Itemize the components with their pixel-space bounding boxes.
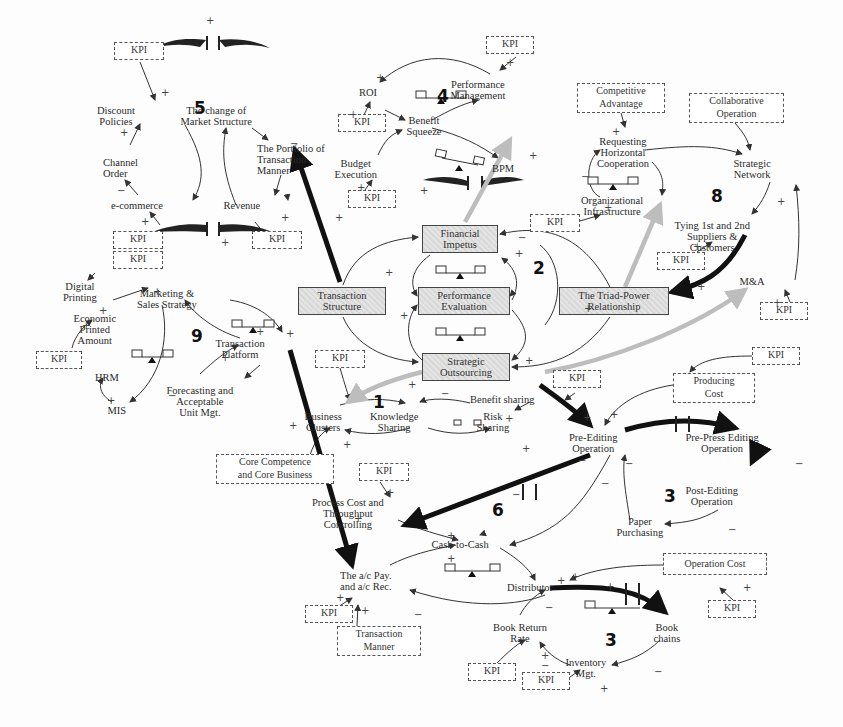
positive-polarity-sign: + — [82, 320, 90, 331]
positive-polarity-sign: + — [357, 182, 365, 193]
positive-polarity-sign: + — [610, 409, 618, 420]
positive-polarity-sign: + — [697, 281, 705, 292]
box-core-competence: Core Competence and Core Business — [216, 454, 334, 484]
loop-number-9: 9 — [191, 326, 203, 346]
node-pre-press-editing-operation: Pre-Press Editing Operation — [686, 432, 759, 454]
positive-polarity-sign: + — [221, 352, 229, 363]
node-ac-pay-ac-rec: The a/c Pay. and a/c Rec. — [340, 570, 392, 592]
positive-polarity-sign: + — [408, 379, 416, 390]
node-distributor: Distributor — [507, 582, 553, 593]
positive-polarity-sign: + — [420, 185, 428, 196]
loop-number-6: 6 — [492, 500, 504, 520]
positive-polarity-sign: + — [571, 571, 579, 582]
positive-polarity-sign: + — [376, 72, 384, 83]
positive-polarity-sign: + — [693, 241, 701, 252]
positive-polarity-sign: + — [515, 248, 523, 259]
negative-polarity-sign: − — [654, 666, 662, 677]
positive-polarity-sign: + — [281, 212, 289, 223]
kpi-box: KPI — [315, 350, 365, 368]
node-benefit-squeeze: Benefit Squeeze — [407, 115, 442, 137]
box-performance-evaluation: Performance Evaluation — [418, 287, 510, 315]
positive-polarity-sign: + — [584, 303, 592, 314]
kpi-box: KPI — [359, 463, 409, 481]
loop-number-1: 1 — [373, 392, 385, 412]
positive-polarity-sign: + — [361, 605, 369, 616]
positive-polarity-sign: + — [336, 592, 344, 603]
positive-polarity-sign: + — [141, 216, 149, 227]
positive-polarity-sign: + — [583, 412, 591, 423]
positive-polarity-sign: + — [161, 87, 169, 98]
positive-polarity-sign: + — [386, 487, 394, 498]
loop-number-2: 2 — [533, 258, 545, 278]
positive-polarity-sign: + — [400, 310, 408, 321]
positive-polarity-sign: + — [221, 237, 229, 248]
kpi-box: KPI — [114, 42, 164, 60]
box-transaction-structure: Transaction Structure — [298, 287, 386, 315]
negative-polarity-sign: − — [518, 232, 526, 243]
loop-number-3-distribution: 3 — [605, 630, 617, 650]
positive-polarity-sign: + — [256, 326, 264, 337]
kpi-box: KPI — [113, 231, 163, 249]
box-collaborative-operation: Collaborative Operation — [689, 93, 784, 123]
positive-polarity-sign: + — [777, 196, 785, 207]
node-hrm: HRM — [95, 372, 119, 383]
positive-polarity-sign: + — [153, 286, 161, 297]
positive-polarity-sign: + — [600, 683, 608, 694]
kpi-box: KPI — [760, 302, 808, 320]
kpi-box: KPI — [708, 600, 756, 618]
node-post-editing-operation: Post-Editing Operation — [686, 485, 739, 507]
node-bpm: BPM — [492, 163, 514, 174]
node-pre-editing-operation: Pre-Editing Operation — [569, 432, 617, 454]
node-strategic-network: Strategic Network — [734, 158, 771, 180]
box-financial-impetus: Financial Impetus — [422, 225, 498, 253]
negative-polarity-sign: − — [581, 171, 589, 182]
box-producing-cost: Producing Cost — [673, 373, 755, 403]
node-e-commerce: e-commerce — [111, 200, 163, 211]
positive-polarity-sign: + — [529, 150, 537, 161]
positive-polarity-sign: + — [522, 443, 530, 454]
negative-polarity-sign: − — [168, 390, 176, 401]
kpi-box: KPI — [522, 672, 570, 690]
positive-polarity-sign: + — [606, 581, 614, 592]
node-tying-suppliers-customers: Tying 1st and 2nd Suppliers & Customers — [675, 220, 750, 253]
positive-polarity-sign: + — [286, 328, 294, 339]
node-mis: MIS — [108, 405, 127, 416]
node-book-return-rate: Book Return Rate — [493, 622, 547, 644]
node-inventory-mgt: Inventory Mgt. — [566, 657, 607, 679]
kpi-box: KPI — [553, 370, 601, 388]
box-transaction-manner: Transaction Manner — [337, 626, 421, 656]
negative-polarity-sign: − — [601, 478, 609, 489]
node-marketing-sales-strategy: Marketing & Sales Strategy — [137, 288, 197, 310]
kpi-box: KPI — [338, 114, 386, 132]
negative-polarity-sign: − — [414, 609, 422, 620]
kpi-box: KPI — [348, 190, 396, 208]
positive-polarity-sign: + — [743, 582, 751, 593]
positive-polarity-sign: + — [206, 15, 214, 26]
negative-polarity-sign: − — [728, 524, 736, 535]
positive-polarity-sign: + — [505, 413, 513, 424]
node-cash-to-cash: Cash-to-Cash — [432, 539, 489, 550]
node-knowledge-sharing: Knowledge Sharing — [370, 411, 418, 433]
kpi-box: KPI — [36, 351, 82, 369]
negative-polarity-sign: − — [578, 455, 586, 466]
positive-polarity-sign: + — [343, 439, 351, 450]
positive-polarity-sign: + — [447, 530, 455, 541]
node-revenue: Revenue — [224, 200, 261, 211]
negative-polarity-sign: − — [441, 388, 449, 399]
kpi-box: KPI — [468, 663, 516, 681]
node-channel-order: Channel Order — [103, 157, 138, 179]
kpi-box: KPI — [113, 251, 163, 269]
positive-polarity-sign: + — [773, 297, 781, 308]
positive-polarity-sign: + — [612, 126, 620, 137]
node-budget-execution: Budget Execution — [335, 158, 378, 180]
positive-polarity-sign: + — [354, 513, 362, 524]
positive-polarity-sign: + — [335, 212, 343, 223]
node-discount-policies: Discount Policies — [97, 105, 135, 127]
node-m-and-a: M&A — [740, 276, 765, 287]
node-requesting-horizontal-cooperation: Requesting Horizontal Cooperation — [597, 136, 649, 169]
node-book-chains: Book chains — [654, 622, 681, 644]
node-paper-purchasing: Paper Purchasing — [617, 516, 664, 538]
loop-number-8: 8 — [711, 186, 723, 206]
positive-polarity-sign: + — [349, 109, 357, 120]
node-forecasting-unit-mgt: Forecasting and Acceptable Unit Mgt. — [167, 385, 234, 418]
